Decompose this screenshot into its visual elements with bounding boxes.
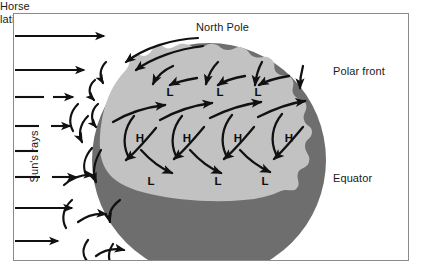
pressure-high: H <box>136 132 144 144</box>
figure-graphics <box>0 0 422 277</box>
pressure-low: L <box>147 175 154 187</box>
pressure-low: L <box>214 175 221 187</box>
diagram-canvas: North Pole Polar front Horse latitudes E… <box>0 0 422 277</box>
pressure-low: L <box>254 86 261 98</box>
pressure-low: L <box>216 86 223 98</box>
label-suns-rays: Sun's rays <box>28 121 41 193</box>
globe-graphic <box>90 38 326 277</box>
label-equator: Equator <box>333 172 372 185</box>
label-polar-front: Polar front <box>333 65 385 78</box>
pressure-low: L <box>261 175 268 187</box>
pressure-high: H <box>285 132 293 144</box>
pressure-low: L <box>166 86 173 98</box>
label-north-pole: North Pole <box>196 21 249 34</box>
pressure-high: H <box>234 132 242 144</box>
pressure-high: H <box>183 132 191 144</box>
